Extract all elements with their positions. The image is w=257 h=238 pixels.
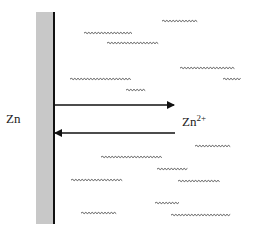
wavy-line [107,42,158,43]
wavy-line [84,32,132,33]
wavy-line [195,145,230,146]
zinc-electrode [36,12,54,224]
solution-molecules [70,20,241,215]
wavy-line [70,78,131,79]
wavy-line [81,212,116,213]
zinc-electrode-label: Zn [6,112,20,125]
wavy-line [178,180,220,181]
wavy-line [71,179,122,180]
zinc-ion-charge: 2+ [196,113,206,123]
wavy-line [162,20,197,21]
wavy-line [126,89,145,90]
wavy-line [180,67,234,68]
wavy-line [101,156,162,157]
diagram-canvas [0,0,257,238]
wavy-line [171,214,230,215]
zinc-ion-label: Zn2+ [182,115,206,128]
wavy-line [223,78,241,79]
wavy-line [155,202,179,203]
zinc-ion-base: Zn [182,114,196,129]
wavy-line [157,168,187,169]
